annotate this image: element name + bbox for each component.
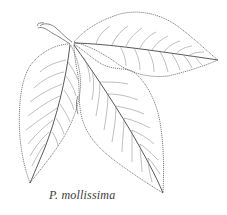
upper-right-leaflet (74, 12, 218, 76)
petiole (37, 23, 72, 44)
species-caption: P. mollissima (49, 188, 115, 203)
leaf-illustration (0, 0, 227, 215)
central-leaflet (74, 44, 164, 193)
left-leaflet (19, 44, 80, 183)
